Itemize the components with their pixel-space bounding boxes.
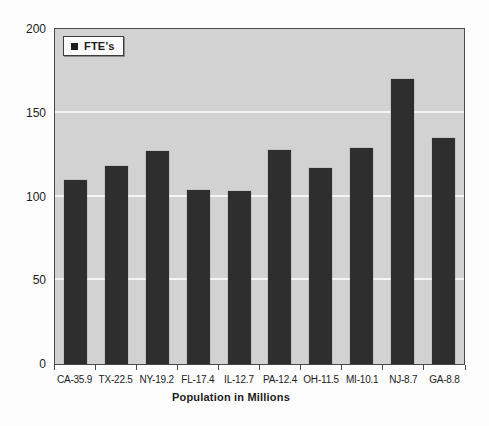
x-tick-label: PA-12.4	[259, 374, 300, 385]
x-tick-mark	[423, 365, 424, 370]
bar-MI-10.1	[350, 148, 373, 364]
y-tick-label: 200	[0, 23, 46, 35]
x-tick-label: FL-17.4	[177, 374, 218, 385]
bar-NY-19.2	[146, 151, 169, 364]
bar-slot	[178, 29, 219, 364]
x-tick-mark	[136, 365, 137, 370]
bar-CA-35.9	[64, 180, 87, 364]
x-tick-label: NJ-8.7	[383, 374, 424, 385]
bar-chart-figure: FTE's 050100150200 CA-35.9TX-22.5NY-19.2…	[0, 0, 489, 426]
x-tick-mark	[177, 365, 178, 370]
bars-container	[55, 29, 464, 364]
y-tick-label: 100	[0, 191, 46, 203]
bar-slot	[300, 29, 341, 364]
bar-IL-12.7	[228, 191, 251, 364]
bar-slot	[55, 29, 96, 364]
bar-slot	[96, 29, 137, 364]
bar-NJ-8.7	[391, 79, 414, 364]
bar-slot	[137, 29, 178, 364]
x-tick-label: CA-35.9	[54, 374, 95, 385]
y-tick-label: 50	[0, 274, 46, 286]
bar-slot	[341, 29, 382, 364]
legend-label: FTE's	[84, 40, 115, 52]
plot-area: FTE's	[54, 28, 465, 365]
x-tick-label: MI-10.1	[342, 374, 383, 385]
x-tick-mark	[259, 365, 260, 370]
bar-slot	[382, 29, 423, 364]
x-tick-mark	[465, 365, 466, 370]
bar-OH-11.5	[309, 168, 332, 364]
x-tick-mark	[218, 365, 219, 370]
x-tick-label: IL-12.7	[218, 374, 259, 385]
x-tick-mark	[54, 365, 55, 370]
bar-TX-22.5	[105, 166, 128, 364]
x-tick-mark	[300, 365, 301, 370]
bar-PA-12.4	[268, 150, 291, 364]
bar-slot	[423, 29, 464, 364]
bar-FL-17.4	[187, 190, 210, 364]
x-tick-mark	[382, 365, 383, 370]
x-tick-mark	[341, 365, 342, 370]
x-tick-mark	[95, 365, 96, 370]
x-tick-label: TX-22.5	[95, 374, 136, 385]
legend-square-marker-icon	[71, 43, 78, 50]
y-tick-label: 150	[0, 107, 46, 119]
legend: FTE's	[63, 36, 124, 56]
bar-slot	[260, 29, 301, 364]
x-axis-title: Population in Millions	[121, 391, 341, 403]
bar-GA-8.8	[432, 138, 455, 364]
x-tick-label: NY-19.2	[136, 374, 177, 385]
y-tick-label: 0	[0, 358, 46, 370]
bar-slot	[219, 29, 260, 364]
x-tick-label: GA-8.8	[424, 374, 465, 385]
x-axis-labels: CA-35.9TX-22.5NY-19.2FL-17.4IL-12.7PA-12…	[54, 374, 465, 385]
x-tick-label: OH-11.5	[301, 374, 342, 385]
